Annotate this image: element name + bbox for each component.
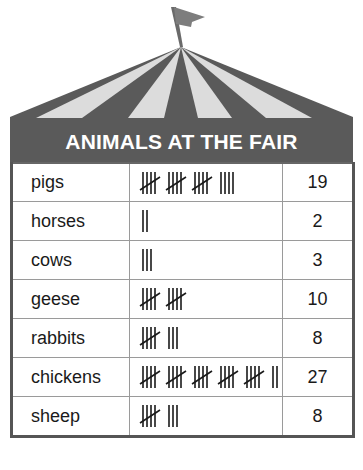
animal-label: cows bbox=[13, 241, 130, 279]
animal-count: 19 bbox=[283, 164, 352, 201]
animal-label: rabbits bbox=[13, 319, 130, 357]
tally-marks-icon bbox=[130, 202, 283, 240]
tally-table: pigs19horses2cows3geese10rabbits8chicken… bbox=[10, 162, 355, 438]
animal-count: 3 bbox=[283, 241, 352, 279]
flag-icon bbox=[174, 7, 205, 27]
table-row: cows3 bbox=[13, 240, 352, 279]
animal-label: chickens bbox=[13, 358, 130, 396]
animal-count: 10 bbox=[283, 280, 352, 318]
tally-marks-icon bbox=[130, 319, 283, 357]
table-row: geese10 bbox=[13, 279, 352, 318]
tally-marks-icon bbox=[130, 164, 283, 201]
animal-label: sheep bbox=[13, 397, 130, 435]
animal-count: 2 bbox=[283, 202, 352, 240]
tally-marks-icon bbox=[130, 280, 283, 318]
table-row: pigs19 bbox=[13, 162, 352, 201]
table-title: ANIMALS AT THE FAIR bbox=[10, 122, 353, 162]
table-row: chickens27 bbox=[13, 357, 352, 396]
tally-marks-icon bbox=[130, 241, 283, 279]
tally-marks-icon bbox=[130, 358, 283, 396]
animal-count: 8 bbox=[283, 397, 352, 435]
animal-label: horses bbox=[13, 202, 130, 240]
animal-count: 27 bbox=[283, 358, 352, 396]
animal-label: geese bbox=[13, 280, 130, 318]
animal-count: 8 bbox=[283, 319, 352, 357]
table-row: sheep8 bbox=[13, 396, 352, 435]
table-row: horses2 bbox=[13, 201, 352, 240]
animal-label: pigs bbox=[13, 164, 130, 201]
tally-marks-icon bbox=[130, 397, 283, 435]
table-row: rabbits8 bbox=[13, 318, 352, 357]
